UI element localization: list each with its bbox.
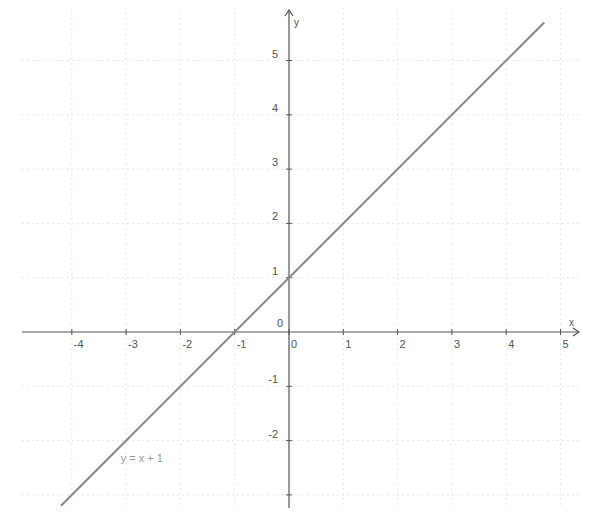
grid-lines [22,8,580,508]
axis-ticks: -4-3-2-1012345-2-1012345 [72,48,569,495]
x-tick-label: -4 [74,338,84,350]
y-tick-label: 4 [272,102,278,114]
x-tick-label: 3 [454,338,460,350]
equation-label: y = x + 1 [121,452,163,464]
y-tick-label: 0 [277,317,283,329]
y-tick-label: 3 [272,156,278,168]
x-tick-label: -2 [182,338,192,350]
x-tick-label: 2 [400,338,406,350]
function-line [61,22,544,505]
x-tick-label: -3 [128,338,138,350]
x-tick-label: 5 [563,338,569,350]
x-tick-label: 1 [345,338,351,350]
y-tick-label: 1 [272,265,278,277]
x-tick-label: -1 [237,338,247,350]
y-tick-label: 2 [272,210,278,222]
x-axis-label: x [569,317,574,328]
y-tick-label: 5 [272,48,278,60]
y-tick-label: -1 [268,373,278,385]
y-axis-label: y [294,17,299,28]
plotted-line [61,22,544,505]
y-tick-label: -2 [268,428,278,440]
x-tick-label: 0 [291,338,297,350]
annotations: y = x + 1 [121,452,163,464]
axes: xy [22,10,579,508]
x-tick-label: 4 [508,338,514,350]
graph-canvas: xy -4-3-2-1012345-2-1012345 y = x + 1 [0,0,597,519]
